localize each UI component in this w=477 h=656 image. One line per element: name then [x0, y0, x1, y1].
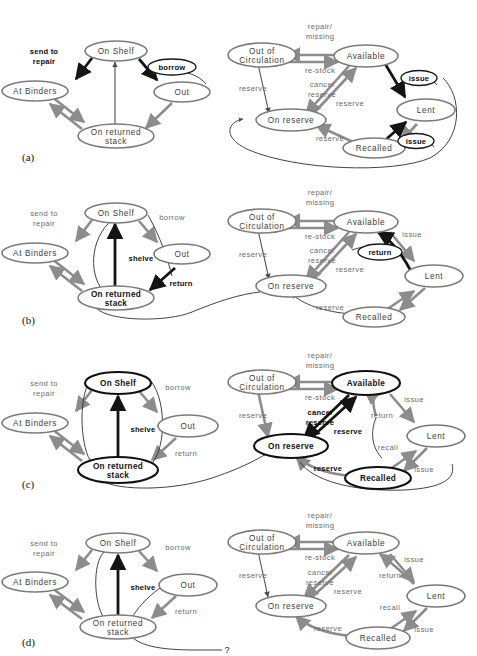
label-issue-2: issue: [406, 137, 426, 146]
label-cancel-1: cancel: [310, 246, 334, 255]
edge-onshelf-atbinders: [76, 390, 92, 411]
label-reserve-1: reserve: [239, 250, 267, 259]
label-repair-1: repair/: [308, 352, 333, 360]
label-borrow: borrow: [165, 543, 191, 552]
panel-a: On Shelf At Binders On returned stack Ou…: [0, 18, 477, 178]
node-available-label: Available: [347, 52, 385, 61]
label-cancel-2: reserve: [306, 578, 334, 587]
label-borrow: borrow: [165, 383, 191, 392]
node-on-shelf-label: On Shelf: [98, 209, 135, 218]
label-cancel-2: reserve: [306, 418, 334, 427]
label-shelve: shelve: [131, 583, 156, 592]
label-repair: repair: [33, 57, 55, 66]
label-re-stock: re-stock: [305, 66, 335, 75]
label-recall: recall: [380, 603, 401, 612]
label-borrow: borrow: [159, 63, 186, 72]
node-out-label: Out: [175, 250, 190, 259]
node-recalled-label: Recalled: [360, 474, 396, 483]
node-on-returned-stack-label-1: On returned: [91, 128, 141, 137]
node-lent-label: Lent: [425, 272, 443, 281]
node-on-returned-stack-label-2: stack: [105, 299, 128, 308]
label-shelve: shelve: [129, 254, 154, 263]
node-recalled-label: Recalled: [356, 313, 393, 322]
label-recall: recall: [378, 443, 399, 452]
node-out-label: Out: [181, 581, 196, 590]
label-cancel-2: reserve: [308, 90, 336, 99]
node-on-shelf-label: On Shelf: [100, 539, 137, 548]
edge-onshelf-curve-left: [94, 214, 122, 288]
panel-a-tag: (a): [22, 151, 34, 163]
panel-d-diagrams: On Shelf At Binders On returned stack Ou…: [0, 512, 477, 656]
label-issue-1: issue: [404, 555, 424, 564]
panel-b-tag: (b): [22, 314, 35, 326]
node-available-label: Available: [347, 218, 385, 227]
top-caption: [22, 0, 322, 6]
label-cancel-2: reserve: [308, 256, 336, 265]
node-on-returned-stack-label-1: On returned: [93, 462, 143, 471]
label-return: return: [169, 279, 192, 288]
node-on-reserve-label: On reserve: [268, 602, 315, 611]
label-issue-2: issue: [414, 625, 434, 634]
label-re-stock: re-stock: [305, 553, 335, 562]
node-on-returned-stack-label-2: stack: [107, 471, 130, 480]
label-re-stock: re-stock: [305, 393, 335, 402]
node-lent-label: Lent: [417, 106, 435, 115]
label-return-right: return: [379, 571, 401, 580]
node-on-reserve-label: On reserve: [268, 442, 314, 451]
label-repair: repair: [33, 549, 55, 558]
node-available-label: Available: [347, 379, 385, 388]
edge-out-stack-return: [152, 596, 176, 618]
edge-onshelf-atbinders: [76, 550, 92, 570]
node-on-shelf-label: On Shelf: [98, 47, 135, 56]
node-at-binders-label: At Binders: [13, 87, 57, 96]
edge-out-stack-return: [152, 438, 176, 460]
label-repair-1: repair/: [308, 22, 333, 31]
node-lent-label: Lent: [427, 592, 445, 601]
panel-d-tag: (d): [22, 636, 35, 648]
panel-a-right-labels: repair/ missing re-stock reserve cancel …: [239, 22, 437, 149]
label-reserve-2: reserve: [334, 587, 362, 596]
edge-onshelf-out: [139, 551, 157, 571]
label-cancel-1: cancel: [308, 568, 332, 577]
panel-c-tag: (c): [22, 478, 34, 490]
edge-out-stack: [146, 103, 172, 128]
label-send-to: send to: [30, 539, 58, 548]
node-recalled-label: Recalled: [360, 634, 397, 643]
label-borrow: borrow: [159, 213, 185, 222]
label-repair-1: repair/: [308, 512, 333, 520]
panel-d: On Shelf At Binders On returned stack Ou…: [0, 512, 477, 656]
node-on-reserve-label: On reserve: [268, 282, 315, 291]
label-cancel-1: cancel: [310, 80, 334, 89]
label-reserve-1: reserve: [239, 411, 267, 420]
node-at-binders-label: At Binders: [13, 249, 57, 258]
node-on-returned-stack-label-2: stack: [105, 137, 127, 146]
edge-shelve-curve: [96, 552, 104, 618]
label-reserve-3: reserve: [314, 624, 342, 633]
node-on-returned-stack-label-1: On returned: [93, 619, 143, 628]
node-on-returned-stack-label-2: stack: [107, 628, 129, 637]
label-repair: repair: [33, 389, 55, 398]
label-repair-2: missing: [306, 521, 335, 530]
panel-b-diagrams: On Shelf At Binders On returned stack Ou…: [0, 188, 477, 333]
label-send-to: send to: [30, 209, 58, 218]
label-return: return: [175, 449, 197, 458]
label-send-to: send to: [30, 47, 59, 56]
node-lent-label: Lent: [427, 432, 445, 441]
label-send-to: send to: [30, 379, 58, 388]
panel-c: On Shelf At Binders On returned stack Ou…: [0, 352, 477, 502]
node-on-shelf-label: On Shelf: [100, 379, 136, 388]
label-cancel-1: cancel: [308, 408, 333, 417]
node-out-label: Out: [175, 88, 190, 97]
label-return-right: return: [368, 248, 391, 257]
label-return-right: return: [371, 411, 393, 420]
edge-recall-curve: [373, 418, 382, 458]
label-issue-1: issue: [404, 395, 424, 404]
node-out-of-circulation-label-2: Circulation: [239, 222, 284, 231]
label-repair-2: missing: [306, 361, 335, 370]
label-issue-2: issue: [414, 465, 434, 474]
edge-onshelf-atbinders: [76, 58, 92, 79]
panel-b: On Shelf At Binders On returned stack Ou…: [0, 188, 477, 333]
label-return: return: [175, 607, 197, 616]
dangling-question-mark: ?: [224, 645, 229, 655]
node-at-binders-label: At Binders: [13, 578, 57, 587]
